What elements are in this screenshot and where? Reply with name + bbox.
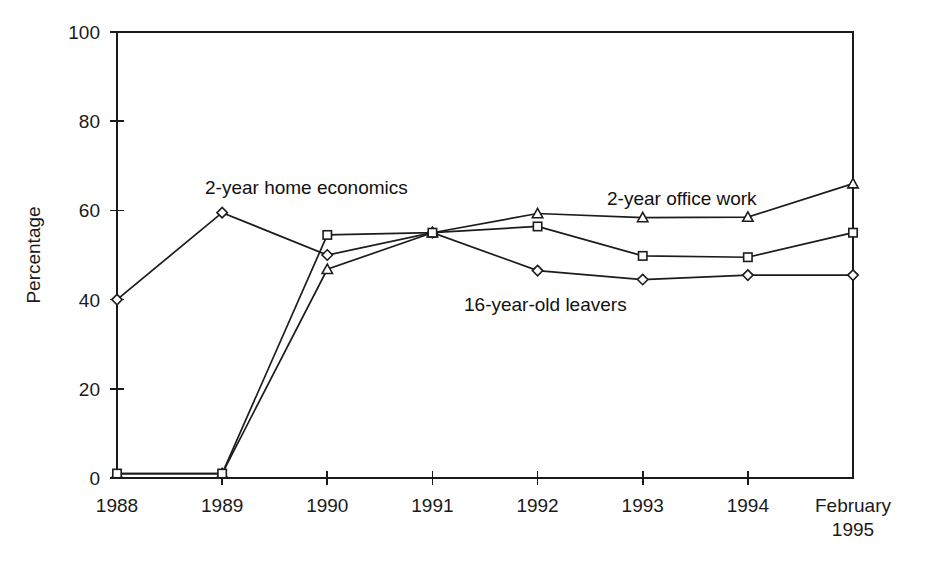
data-point-marker — [532, 265, 542, 275]
data-point-marker — [113, 469, 121, 477]
data-point-marker — [323, 231, 331, 239]
x-tick-label: February1995 — [815, 495, 892, 540]
series-layer — [117, 184, 853, 474]
y-tick-label: 0 — [89, 468, 100, 489]
series-line — [117, 226, 853, 473]
y-tick-label: 80 — [79, 111, 100, 132]
data-point-marker — [638, 274, 648, 284]
data-point-marker — [849, 229, 857, 237]
data-point-marker — [218, 469, 226, 477]
y-axis-tick-labels: 020406080100 — [68, 22, 100, 489]
data-point-marker — [848, 178, 858, 187]
data-point-marker — [533, 222, 541, 230]
y-axis-title: Percentage — [23, 206, 44, 303]
data-point-marker — [848, 270, 858, 280]
line-chart: 020406080100 198819891990199119921993199… — [0, 0, 936, 567]
y-tick-label: 60 — [79, 200, 100, 221]
series-line — [117, 213, 853, 300]
annotation-layer: 2-year home economics2-year office work1… — [205, 177, 757, 315]
y-tick-label: 20 — [79, 379, 100, 400]
chart-figure: 020406080100 198819891990199119921993199… — [0, 0, 936, 567]
x-tick-label: 1990 — [306, 495, 348, 516]
x-tick-label: 1993 — [622, 495, 664, 516]
annotation-16-year-old-leavers: 16-year-old leavers — [464, 294, 627, 315]
axis-frame — [117, 32, 853, 478]
x-tick-label: 1989 — [201, 495, 243, 516]
x-tick-label: 1994 — [727, 495, 770, 516]
data-point-marker — [322, 250, 332, 260]
x-tick-label: 1988 — [96, 495, 138, 516]
data-point-marker — [743, 270, 753, 280]
annotation-home-economics: 2-year home economics — [205, 177, 408, 198]
annotation-office-work: 2-year office work — [607, 188, 757, 209]
x-tick-label: 1992 — [516, 495, 558, 516]
data-point-marker — [744, 253, 752, 261]
data-point-marker — [428, 229, 436, 237]
y-tick-label: 40 — [79, 290, 100, 311]
x-tick-label: 1991 — [411, 495, 453, 516]
data-point-marker — [639, 252, 647, 260]
y-tick-label: 100 — [68, 22, 100, 43]
series-line — [117, 184, 853, 474]
x-axis-tick-labels: 1988198919901991199219931994February1995 — [96, 495, 892, 540]
